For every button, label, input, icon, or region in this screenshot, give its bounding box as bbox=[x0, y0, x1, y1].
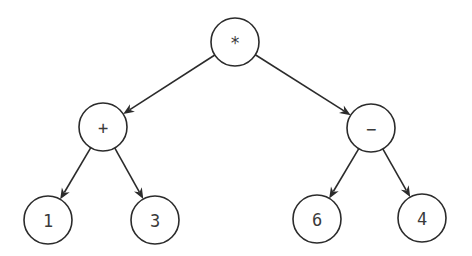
edge-line bbox=[64, 148, 91, 193]
edge-minus-to-n6 bbox=[329, 149, 359, 199]
operator-label: − bbox=[366, 119, 376, 139]
edge-line bbox=[130, 55, 215, 110]
edge-plus-to-n3 bbox=[115, 148, 144, 199]
tree-node-n3: 3 bbox=[131, 196, 179, 244]
operand-label: 3 bbox=[150, 211, 160, 231]
tree-node-minus: − bbox=[347, 104, 395, 152]
tree-node-root: * bbox=[211, 18, 259, 66]
operand-label: 4 bbox=[417, 209, 427, 229]
operator-label: * bbox=[230, 33, 240, 53]
edge-plus-to-n1 bbox=[60, 148, 91, 200]
edge-line bbox=[383, 149, 406, 190]
operand-label: 6 bbox=[312, 210, 322, 230]
arrowhead-icon bbox=[401, 185, 410, 197]
edge-root-to-minus bbox=[255, 55, 350, 115]
tree-node-n4: 4 bbox=[398, 194, 446, 242]
edge-line bbox=[333, 149, 359, 192]
expression-tree-diagram: *+−1364 bbox=[0, 0, 472, 256]
edge-line bbox=[255, 55, 344, 111]
arrowhead-icon bbox=[329, 187, 339, 199]
arrowhead-icon bbox=[339, 106, 351, 116]
edge-line bbox=[115, 148, 140, 192]
edge-minus-to-n4 bbox=[383, 149, 410, 197]
operator-label: + bbox=[98, 118, 108, 138]
operand-label: 1 bbox=[43, 211, 53, 231]
tree-node-plus: + bbox=[79, 103, 127, 151]
arrowhead-icon bbox=[60, 188, 69, 200]
arrowhead-icon bbox=[123, 104, 135, 114]
nodes-layer: *+−1364 bbox=[24, 18, 446, 244]
tree-node-n6: 6 bbox=[293, 195, 341, 243]
edge-root-to-plus bbox=[123, 55, 215, 114]
arrowhead-icon bbox=[134, 187, 143, 199]
tree-node-n1: 1 bbox=[24, 196, 72, 244]
